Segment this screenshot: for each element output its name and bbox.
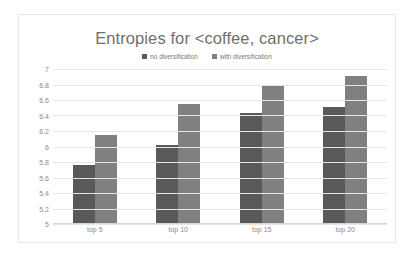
bar-with-diversification[interactable] [95, 135, 117, 224]
y-axis-tick-label: 7 [45, 66, 49, 73]
y-axis-tick-label: 5.6 [39, 174, 49, 181]
y-axis-tick-label: 5 [45, 221, 49, 228]
gridline [53, 69, 387, 70]
gridline [53, 85, 387, 86]
bar-no-diversification[interactable] [240, 113, 262, 224]
y-axis: 76.86.66.46.265.85.65.45.25 [29, 69, 51, 224]
bar-no-diversification[interactable] [73, 165, 95, 224]
gridline [53, 193, 387, 194]
legend-item-with-diversification: with diversification [212, 53, 272, 60]
legend-swatch-series-2 [212, 54, 217, 59]
y-axis-tick-label: 6 [45, 143, 49, 150]
bar-no-diversification[interactable] [323, 107, 345, 224]
gridline [53, 224, 387, 225]
gridline [53, 100, 387, 101]
plot-wrapper: 76.86.66.46.265.85.65.45.25 top 5top 10t… [29, 69, 389, 234]
legend-swatch-series-1 [142, 54, 147, 59]
x-axis-tick-label: top 5 [53, 226, 137, 233]
x-axis-tick-label: top 20 [304, 226, 388, 233]
gridline [53, 147, 387, 148]
gridline [53, 131, 387, 132]
gridline [53, 209, 387, 210]
x-axis: top 5top 10top 15top 20 [53, 226, 387, 233]
gridline [53, 115, 387, 116]
bar-with-diversification[interactable] [345, 76, 367, 224]
bar-with-diversification[interactable] [178, 104, 200, 224]
y-axis-tick-label: 5.2 [39, 205, 49, 212]
x-axis-tick-label: top 10 [137, 226, 221, 233]
bar-with-diversification[interactable] [262, 85, 284, 224]
y-axis-tick-label: 5.8 [39, 159, 49, 166]
x-axis-tick-label: top 15 [220, 226, 304, 233]
y-axis-tick-label: 6.8 [39, 81, 49, 88]
y-axis-tick-label: 5.4 [39, 190, 49, 197]
legend-label-series-1: no diversification [150, 53, 198, 60]
legend-item-no-diversification: no diversification [142, 53, 198, 60]
legend-label-series-2: with diversification [220, 53, 272, 60]
chart-title: Entropies for <coffee, cancer> [19, 29, 395, 48]
gridline [53, 162, 387, 163]
gridline [53, 178, 387, 179]
y-axis-tick-label: 6.6 [39, 97, 49, 104]
plot-area [53, 69, 387, 224]
chart-container: Entropies for <coffee, cancer> no divers… [18, 14, 396, 243]
y-axis-tick-label: 6.2 [39, 128, 49, 135]
y-axis-tick-label: 6.4 [39, 112, 49, 119]
chart-legend: no diversification with diversification [19, 53, 395, 60]
bar-no-diversification[interactable] [156, 145, 178, 224]
